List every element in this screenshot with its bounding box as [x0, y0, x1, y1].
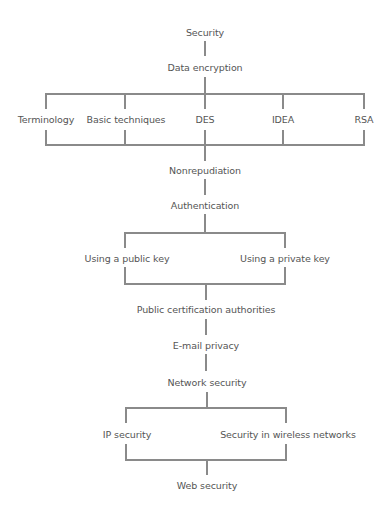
node-network-security: Network security	[167, 377, 246, 389]
node-idea: IDEA	[272, 114, 294, 126]
node-nonrepudiation: Nonrepudiation	[169, 165, 241, 177]
node-data-encryption: Data encryption	[167, 62, 242, 74]
node-web-security: Web security	[177, 480, 237, 492]
node-rsa: RSA	[354, 114, 373, 126]
node-des: DES	[195, 114, 214, 126]
node-ip-security: IP security	[103, 429, 151, 441]
node-security: Security	[186, 27, 224, 39]
node-public-key: Using a public key	[85, 253, 170, 265]
node-authentication: Authentication	[171, 200, 239, 212]
node-wireless-security: Security in wireless networks	[220, 429, 356, 441]
node-email-privacy: E-mail privacy	[173, 340, 239, 352]
node-terminology: Terminology	[18, 114, 75, 126]
node-basic-techniques: Basic techniques	[87, 114, 166, 126]
node-public-certification-authorities: Public certification authorities	[137, 304, 276, 316]
node-private-key: Using a private key	[240, 253, 330, 265]
